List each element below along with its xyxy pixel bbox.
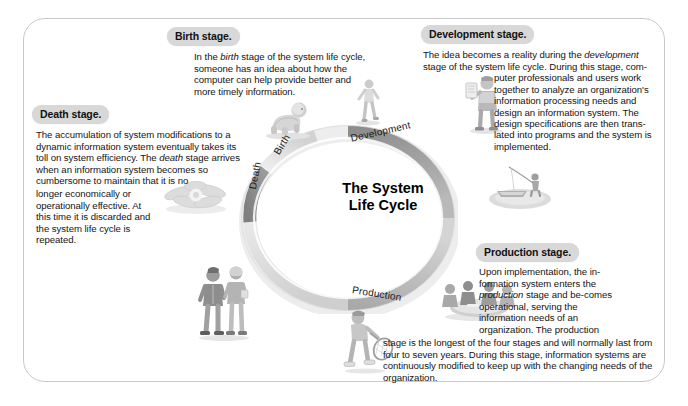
- development-stage-text: The idea becomes a reality during the de…: [423, 49, 659, 72]
- production-stage-text: Upon implementation, the in-formation sy…: [479, 266, 627, 336]
- development-stage-text-continued: puter professionals and users work toget…: [494, 72, 660, 130]
- birth-stage-badge: Birth stage.: [167, 27, 240, 45]
- diagram-center-title: The System Life Cycle: [318, 180, 448, 214]
- walking-couple-illustration: [191, 264, 257, 342]
- development-stage-text-continued-2: lated into programs and the system is im…: [494, 129, 660, 152]
- center-title-line-2: Life Cycle: [318, 197, 448, 214]
- death-stage-text-continued: longer economically or operationally eff…: [36, 188, 154, 246]
- death-stage-badge: Death stage.: [32, 105, 109, 123]
- production-stage-text-continued: stage is the longest of the four stages …: [383, 337, 660, 383]
- fisherman-illustration: [487, 163, 553, 211]
- birth-stage-text: In the birth stage of the system life cy…: [194, 51, 366, 97]
- death-stage-text: The accumulation of system modifications…: [36, 129, 246, 187]
- center-title-line-1: The System: [318, 180, 448, 197]
- development-stage-badge: Development stage.: [421, 25, 534, 43]
- production-stage-badge: Production stage.: [476, 243, 579, 261]
- crawling-baby-illustration: [262, 100, 314, 140]
